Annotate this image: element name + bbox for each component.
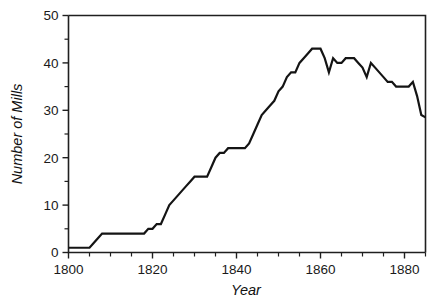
x-tick-label: 1860 [305, 262, 335, 277]
y-tick-label: 0 [51, 245, 59, 260]
x-tick-label: 1820 [137, 262, 167, 277]
y-tick-label: 10 [43, 198, 58, 213]
x-tick-label: 1880 [389, 262, 419, 277]
y-tick-label: 50 [43, 8, 58, 23]
y-tick-label: 40 [43, 56, 58, 71]
chart-container: 0102030405018001820184018601880 Number o… [0, 0, 437, 301]
y-tick-label: 30 [43, 103, 58, 118]
data-series [69, 49, 426, 248]
y-tick-label: 20 [43, 151, 58, 166]
y-axis-title: Number of Mills [9, 84, 25, 185]
axis-left-bottom [69, 16, 426, 253]
plot-axes [69, 16, 426, 253]
axis-ticks [63, 16, 426, 259]
x-tick-label: 1800 [53, 262, 83, 277]
x-axis-title: Year [231, 282, 262, 298]
x-tick-label: 1840 [221, 262, 251, 277]
series-line [69, 49, 426, 248]
axis-top-right [69, 16, 426, 253]
line-chart: 0102030405018001820184018601880 Number o… [0, 0, 437, 301]
